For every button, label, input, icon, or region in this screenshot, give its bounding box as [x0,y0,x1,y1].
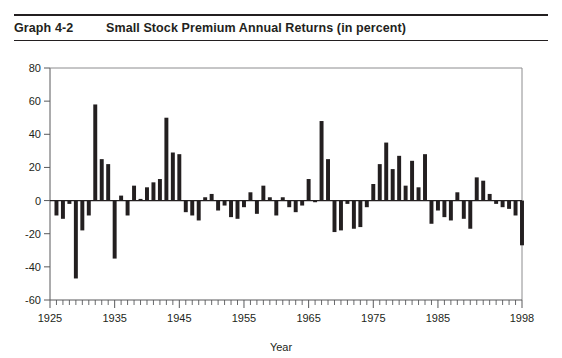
x-tick-label: 1998 [510,312,534,324]
bar [358,201,362,228]
bar [481,181,485,201]
bar [320,121,324,201]
bar-series [54,104,523,278]
bar [378,164,382,200]
bar [384,143,388,201]
bar [507,201,511,209]
bar [87,201,91,216]
bar [300,201,304,206]
bar [339,201,343,231]
graph-title: Small Stock Premium Annual Returns (in p… [106,21,406,35]
bar [391,169,395,200]
bar [210,194,214,201]
bar [80,201,84,231]
bar [326,159,330,200]
y-axis-ticks [44,68,50,300]
bar [514,201,518,216]
bar-chart: 806040200-20-40-60 192519351945195519651… [0,0,562,358]
bar [177,154,181,200]
y-tick-label: 80 [29,62,41,74]
bar [287,201,291,208]
bar [501,201,505,208]
y-tick-label: 20 [29,161,41,173]
bar [139,199,143,201]
bar [151,182,155,200]
y-tick-label: 60 [29,95,41,107]
bar [119,196,123,201]
bar [164,118,168,201]
bar [106,164,110,200]
bar [158,179,162,201]
x-tick-label: 1935 [102,312,126,324]
bar [371,184,375,201]
bar [171,153,175,201]
bar [67,201,71,204]
bar [333,201,337,232]
x-tick-label: 1945 [167,312,191,324]
bar [126,201,130,216]
bar [190,201,194,216]
x-axis-ticks [50,300,522,308]
bar [436,201,440,211]
bar [268,197,272,200]
bar [352,201,356,229]
bar [455,192,459,200]
bar [462,201,466,219]
bar [307,179,311,201]
bar [255,201,259,214]
bar [468,201,472,229]
bar [203,197,207,200]
chart-svg: 806040200-20-40-60 192519351945195519651… [0,0,562,358]
header-row: Graph 4-2 Small Stock Premium Annual Ret… [14,16,548,40]
bar [184,201,188,213]
bar [313,201,317,203]
bar [248,192,252,200]
x-tick-label: 1955 [232,312,256,324]
figure-header: Graph 4-2 Small Stock Premium Annual Ret… [14,14,548,41]
y-tick-label: -40 [25,261,41,273]
bar [520,201,524,246]
y-tick-label: -20 [25,228,41,240]
bar [100,159,104,200]
bar [132,186,136,201]
bar [197,201,201,221]
bar [494,201,498,204]
x-tick-label: 1975 [361,312,385,324]
x-tick-labels: 19251935194519551965197519851998 [38,312,534,324]
y-tick-label: 40 [29,128,41,140]
bar [397,156,401,201]
bar [274,201,278,216]
bar [61,201,65,219]
x-tick-label: 1965 [296,312,320,324]
bar [488,194,492,201]
bar [410,161,414,201]
bar [404,186,408,201]
bar [430,201,434,224]
graph-number-label: Graph 4-2 [14,21,106,35]
bar [449,201,453,221]
y-tick-label: 0 [35,195,41,207]
bar [294,201,298,213]
bar [423,154,427,200]
bar [54,201,58,216]
x-tick-label: 1925 [38,312,62,324]
bar [261,186,265,201]
bar [345,201,349,204]
bar [113,201,117,259]
bar [236,201,240,219]
bar [242,201,246,208]
bar [229,201,233,218]
bar [475,177,479,200]
bar [365,201,369,208]
bar [145,187,149,200]
bar [417,187,421,200]
x-tick-label: 1985 [426,312,450,324]
bar [223,201,227,206]
bar [281,197,285,200]
bar [442,201,446,218]
header-rule-bottom [14,40,548,41]
plot-frame [50,68,522,300]
y-tick-label: -60 [25,294,41,306]
bar [216,201,220,211]
bar [93,104,97,200]
